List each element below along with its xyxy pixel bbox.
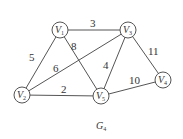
weight-v1-v5: 8	[71, 40, 77, 52]
edge-v2-v5	[22, 95, 101, 96]
weight-v1-v3: 3	[90, 17, 96, 29]
weight-v3-v4: 11	[148, 45, 159, 57]
graph-diagram: 3 5 8 6 4 11 2 10 V1 V2 V3 V4 V5 G4	[0, 0, 183, 139]
node-v2: V2	[14, 87, 30, 103]
node-v3: V3	[120, 22, 136, 38]
weight-v2-v3: 6	[53, 62, 59, 74]
node-v1: V1	[52, 22, 68, 38]
node-v5: V5	[93, 88, 109, 104]
weight-v2-v5: 2	[61, 83, 67, 95]
graph-title: G4	[96, 120, 106, 132]
weight-v3-v5: 4	[103, 59, 109, 71]
weight-v5-v4: 10	[129, 74, 141, 86]
weight-v1-v2: 5	[29, 51, 35, 63]
node-v4: V4	[155, 72, 171, 88]
